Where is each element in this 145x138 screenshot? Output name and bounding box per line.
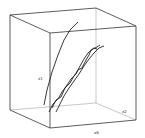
curve-4 [56,46,104,112]
box-edge [10,15,50,33]
box-edge [96,8,136,26]
box-edge [96,103,136,120]
box-edge [50,120,136,128]
axis-label-x2: x2 [122,110,127,114]
curve-1 [44,22,78,105]
box-edge [10,8,96,15]
bounding-box [10,8,136,128]
axis-label-x6: x6 [94,131,99,135]
data-curves [44,22,104,112]
3d-wireframe-plot [0,0,145,138]
axis-label-x1: x1 [38,77,43,81]
box-edge [50,26,136,33]
box-edge [10,110,50,128]
